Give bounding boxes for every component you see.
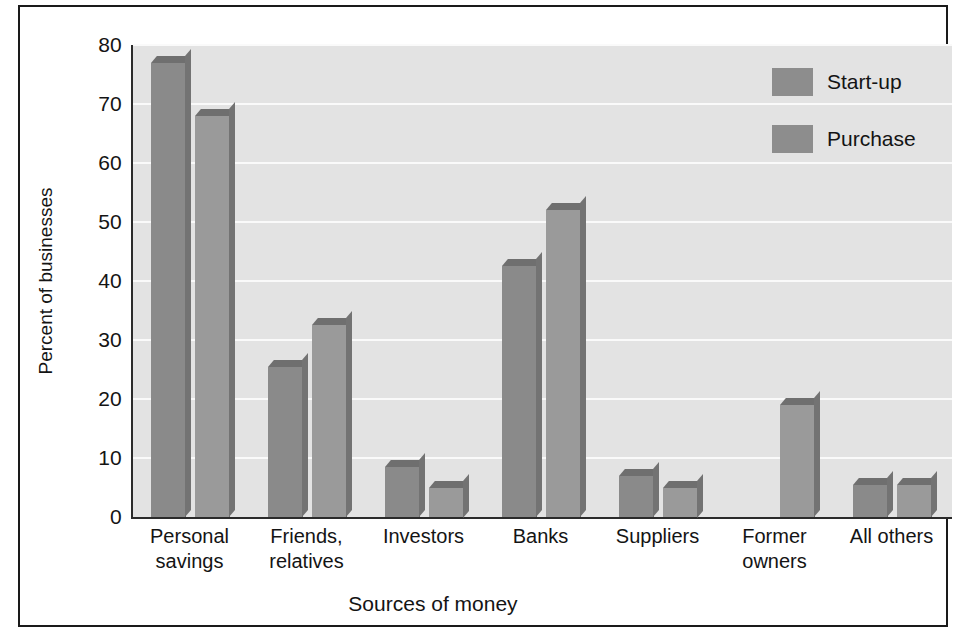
legend-item: Purchase [772,124,916,154]
bar-side-face [185,49,191,517]
bar-purchase [780,405,815,517]
x-axis-tick-label: Suppliers [616,524,699,549]
bar-side-face [931,471,937,517]
x-axis-tick-line: All others [850,524,933,549]
bar-purchase [429,488,464,518]
legend-item: Start-up [772,67,916,97]
x-axis-tick-line: owners [742,549,806,574]
bar-side-face [536,252,542,517]
bar-side-face [580,196,586,517]
x-axis-tick-line: savings [150,549,229,574]
bar-purchase [195,116,230,517]
bar-side-face [887,471,893,517]
x-axis-tick-label: Friends,relatives [269,524,343,574]
bar-purchase [663,488,698,518]
bar-side-face [419,453,425,517]
x-axis-tick-label: Personalsavings [150,524,229,574]
x-axis-title: Sources of money [348,592,517,616]
bar-side-face [697,474,703,517]
bar-purchase [312,325,347,517]
bar-side-face [814,391,820,517]
legend-label-purchase: Purchase [827,127,916,151]
x-axis-tick-line: Suppliers [616,524,699,549]
x-axis-tick-line: Friends, [269,524,343,549]
chart-legend: Start-up Purchase [772,67,916,181]
bar-start-up [385,467,420,517]
gridline [133,44,952,46]
gridline [133,339,952,341]
x-axis-tick-line: Investors [383,524,464,549]
y-axis-tick-label: 20 [98,387,122,411]
legend-swatch-start-up [772,68,813,96]
y-axis-tick-label: 0 [110,505,122,529]
gridline [133,398,952,400]
y-axis-tick-label: 10 [98,446,122,470]
bar-start-up [853,485,888,517]
bar-start-up [502,266,537,517]
bar-side-face [463,474,469,517]
bar-purchase [897,485,932,517]
bar-start-up [268,367,303,517]
bar-side-face [346,311,352,517]
y-axis-tick-label: 40 [98,269,122,293]
bar-side-face [653,462,659,517]
bar-start-up [619,476,654,517]
x-axis-tick-line: relatives [269,549,343,574]
x-axis-tick-line: Banks [513,524,569,549]
x-axis-tick-line: Personal [150,524,229,549]
x-axis-tick-label: All others [850,524,933,549]
legend-swatch-purchase [772,125,813,153]
bar-start-up [151,63,186,517]
bar-side-face [229,102,235,517]
x-axis-tick-label: Formerowners [742,524,806,574]
bar-side-face [302,353,308,517]
gridline [133,280,952,282]
gridline [133,457,952,459]
x-axis-tick-line: Former [742,524,806,549]
y-axis-tick-label: 50 [98,210,122,234]
x-axis-tick-label: Banks [513,524,569,549]
gridline [133,221,952,223]
x-axis-tick-label: Investors [383,524,464,549]
legend-label-start-up: Start-up [827,70,902,94]
y-axis-tick-label: 60 [98,151,122,175]
y-axis-tick-label: 80 [98,33,122,57]
y-axis-tick-label: 70 [98,92,122,116]
chart-figure: Percent of businesses 01020304050607080 … [18,5,948,627]
bar-purchase [546,210,581,517]
y-axis-tick-label: 30 [98,328,122,352]
y-axis-title: Percent of businesses [35,188,57,375]
